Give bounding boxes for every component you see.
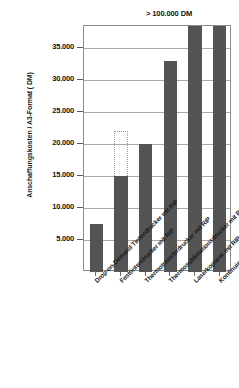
annotation-over-100000-dm: > 100.000 DM bbox=[146, 9, 192, 18]
bar bbox=[90, 224, 104, 272]
y-axis-tick: 35.000 bbox=[0, 42, 83, 52]
y-axis-title: Anschaffungskosten / A3-Format ( DM) bbox=[23, 45, 37, 225]
y-axis-tick: 10.000 bbox=[0, 202, 83, 212]
y-axis-tick: 30.000 bbox=[0, 74, 83, 84]
bar-range-extension bbox=[114, 131, 128, 176]
y-axis-tick-label: 5.000 bbox=[56, 234, 74, 244]
gridline bbox=[84, 48, 230, 49]
gridline bbox=[84, 144, 230, 145]
y-axis-tick: 15.000 bbox=[0, 170, 83, 180]
gridline bbox=[84, 176, 230, 177]
y-axis-tick-label: 10.000 bbox=[52, 202, 74, 212]
plot-area bbox=[83, 25, 231, 271]
y-axis-tick: 20.000 bbox=[0, 138, 83, 148]
y-axis-tick-label: 35.000 bbox=[52, 42, 74, 52]
y-axis-tick-label: 25.000 bbox=[52, 106, 74, 116]
y-axis-tick: 25.000 bbox=[0, 106, 83, 116]
plot-inner bbox=[84, 26, 230, 270]
y-axis-tick: 5.000 bbox=[0, 234, 83, 244]
gridline bbox=[84, 112, 230, 113]
y-axis-tick-label: 30.000 bbox=[52, 74, 74, 84]
gridline bbox=[84, 80, 230, 81]
gridline bbox=[84, 208, 230, 209]
bar-chart: Anschaffungskosten / A3-Format ( DM) 5.0… bbox=[0, 0, 239, 388]
y-axis-tick-label: 20.000 bbox=[52, 138, 74, 148]
y-axis-tick-label: 15.000 bbox=[52, 170, 74, 180]
